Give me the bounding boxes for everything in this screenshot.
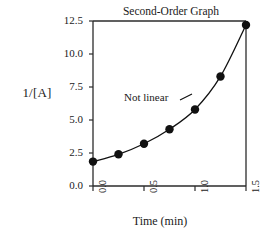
data-point-markers	[89, 21, 250, 166]
data-curve	[93, 25, 246, 162]
data-point	[242, 21, 250, 29]
data-point	[140, 140, 148, 148]
data-point	[191, 105, 199, 113]
data-point	[89, 157, 97, 165]
axis-lines	[93, 21, 246, 186]
annotation-pointer-line	[180, 94, 192, 100]
data-point	[114, 150, 122, 158]
x-axis-tick-marks	[93, 186, 246, 191]
plot-area	[0, 0, 264, 239]
data-point	[165, 125, 173, 133]
data-point	[216, 72, 224, 80]
second-order-graph-figure: 1/[A] Second-Order Graph Not linear Time…	[0, 0, 264, 239]
